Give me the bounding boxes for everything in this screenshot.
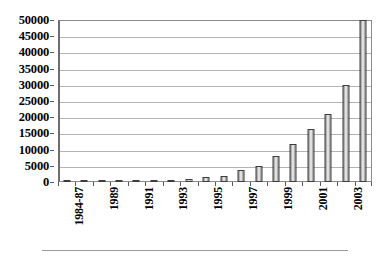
bar [255, 166, 262, 182]
bar-slot [58, 20, 75, 182]
bar [290, 144, 297, 182]
y-tick-label: 5000 [25, 158, 49, 173]
x-tick-mark [93, 182, 94, 186]
y-tick-label: 20000 [19, 110, 49, 125]
bar-slot [163, 20, 180, 182]
x-tick-mark [355, 182, 356, 186]
y-tick-label: 50000 [19, 13, 49, 28]
y-tick-label: 25000 [19, 94, 49, 109]
bar-slot [145, 20, 162, 182]
bar-slot [93, 20, 110, 182]
bar-slot [110, 20, 127, 182]
bar [360, 20, 367, 182]
y-tick-label: 40000 [19, 45, 49, 60]
x-tick-mark [320, 182, 321, 186]
chart-container: 5000045000400003500030000250002000015000… [0, 0, 392, 260]
x-tick-label: 1991 [142, 187, 157, 210]
bar-slot [180, 20, 197, 182]
x-tick-mark [163, 182, 164, 186]
y-tick-mark [50, 36, 54, 37]
x-tick-label: 1999 [281, 187, 296, 210]
x-tick-label: 1989 [107, 187, 122, 210]
x-tick-mark [371, 182, 372, 186]
bar-slot [302, 20, 319, 182]
x-tick-label: 2003 [351, 187, 366, 210]
x-tick-mark [232, 182, 233, 186]
x-axis-labels: 1984-8719891991199319951997199920012003 [58, 187, 372, 247]
y-tick-label: 10000 [19, 142, 49, 157]
x-tick-mark [128, 182, 129, 186]
bar-slot [128, 20, 145, 182]
x-tick-mark [110, 182, 111, 186]
x-tick-mark [285, 182, 286, 186]
bar [325, 114, 332, 182]
y-tick-label: 15000 [19, 126, 49, 141]
x-tick-mark [180, 182, 181, 186]
bar [273, 156, 280, 182]
y-tick-mark [50, 166, 54, 167]
y-tick-mark [50, 117, 54, 118]
bar-slot [232, 20, 249, 182]
x-tick-mark [215, 182, 216, 186]
bar-slot [355, 20, 372, 182]
x-tick-mark [302, 182, 303, 186]
bar-slot [250, 20, 267, 182]
bar [342, 85, 349, 182]
y-tick-label: 0 [43, 175, 49, 190]
x-tick-mark [58, 182, 59, 186]
bar-slot [337, 20, 354, 182]
x-tick-mark [267, 182, 268, 186]
x-tick-label: 1993 [176, 187, 191, 210]
x-tick-label: 2001 [316, 187, 331, 210]
x-tick-mark [198, 182, 199, 186]
bar-slot [267, 20, 284, 182]
x-tick-mark [75, 182, 76, 186]
y-tick-mark [50, 52, 54, 53]
bar-slot [215, 20, 232, 182]
y-tick-label: 35000 [19, 61, 49, 76]
x-tick-label: 1995 [211, 187, 226, 210]
bar-slot [75, 20, 92, 182]
bar-series [58, 20, 372, 182]
y-tick-mark [50, 133, 54, 134]
x-tick-label: 1997 [246, 187, 261, 210]
x-tick-label: 1984-87 [72, 187, 87, 226]
y-tick-mark [50, 69, 54, 70]
x-tick-mark [337, 182, 338, 186]
x-tick-mark [145, 182, 146, 186]
bar-slot [285, 20, 302, 182]
footer-rule [42, 250, 348, 251]
y-tick-mark [50, 85, 54, 86]
y-tick-mark [50, 150, 54, 151]
bar [238, 170, 245, 182]
y-tick-label: 45000 [19, 29, 49, 44]
y-tick-mark [50, 20, 54, 21]
x-tick-mark [250, 182, 251, 186]
bar-slot [320, 20, 337, 182]
y-tick-label: 30000 [19, 77, 49, 92]
bar-slot [198, 20, 215, 182]
y-axis: 5000045000400003500030000250002000015000… [0, 20, 54, 182]
y-tick-mark [50, 101, 54, 102]
bar [307, 129, 314, 182]
y-tick-mark [50, 182, 54, 183]
